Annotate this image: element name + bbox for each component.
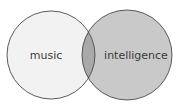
set-music-label: music (30, 49, 63, 62)
venn-diagram: music intelligence (0, 0, 182, 109)
set-intelligence-label: intelligence (104, 49, 168, 62)
